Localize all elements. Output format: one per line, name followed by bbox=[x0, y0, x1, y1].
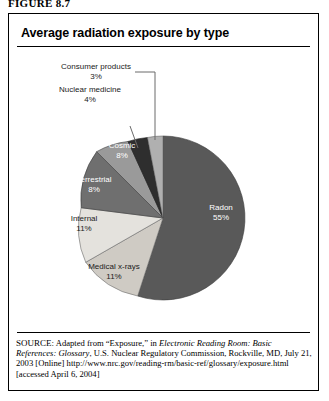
slice-label-terrestrial-name: Terrestrial bbox=[62, 175, 126, 185]
slice-label-medical-xrays-name: Medical x-rays bbox=[76, 262, 152, 272]
source-text-before-title: Adapted from “Exposure,” in bbox=[54, 338, 159, 348]
slice-label-medical-xrays: Medical x-rays 11% bbox=[76, 262, 152, 282]
slice-label-radon: Radon 55% bbox=[196, 203, 246, 223]
slice-label-internal-name: Internal bbox=[55, 214, 113, 224]
slice-value-radon: 55% bbox=[196, 213, 246, 223]
slice-value-consumer-products: 3% bbox=[56, 72, 136, 82]
source-divider bbox=[17, 332, 310, 333]
pie-chart-plot: Consumer products 3% Nuclear medicine 4%… bbox=[0, 0, 329, 340]
slice-value-medical-xrays: 11% bbox=[76, 272, 152, 282]
slice-value-terrestrial: 8% bbox=[62, 185, 126, 195]
slice-label-consumer-products-name: Consumer products bbox=[56, 62, 136, 72]
source-note: SOURCE: Adapted from “Exposure,” in Elec… bbox=[16, 338, 312, 379]
slice-label-internal: Internal 11% bbox=[55, 214, 113, 234]
slice-value-internal: 11% bbox=[55, 224, 113, 234]
leader-line-consumer-products bbox=[135, 72, 155, 140]
slice-label-nuclear-medicine: Nuclear medicine 4% bbox=[50, 85, 130, 105]
slice-label-terrestrial: Terrestrial 8% bbox=[62, 175, 126, 195]
slice-label-cosmic: Cosmic 8% bbox=[96, 141, 148, 161]
pie-chart-svg bbox=[0, 0, 329, 340]
slice-label-consumer-products: Consumer products 3% bbox=[56, 62, 136, 82]
slice-label-nuclear-medicine-name: Nuclear medicine bbox=[50, 85, 130, 95]
slice-label-cosmic-name: Cosmic bbox=[96, 141, 148, 151]
slice-value-cosmic: 8% bbox=[96, 151, 148, 161]
slice-label-radon-name: Radon bbox=[196, 203, 246, 213]
source-prefix: SOURCE: bbox=[16, 338, 54, 348]
slice-value-nuclear-medicine: 4% bbox=[50, 95, 130, 105]
figure-container: FIGURE 8.7 Average radiation exposure by… bbox=[0, 0, 329, 401]
